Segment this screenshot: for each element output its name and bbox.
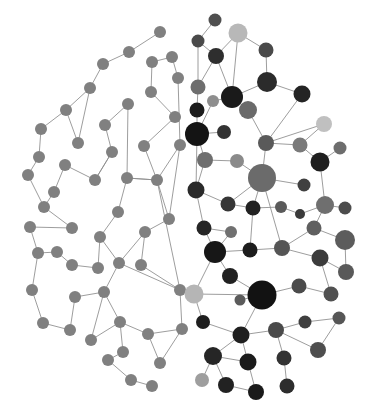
- network-node-l33[interactable]: [166, 51, 178, 63]
- network-node-r8[interactable]: [221, 86, 243, 108]
- network-node-r17[interactable]: [293, 138, 308, 153]
- network-node-r13[interactable]: [316, 116, 332, 132]
- network-node-r42[interactable]: [248, 281, 277, 310]
- network-node-r35[interactable]: [204, 241, 226, 263]
- network-node-l39[interactable]: [135, 259, 147, 271]
- network-node-r33[interactable]: [197, 221, 212, 236]
- network-node-r40[interactable]: [185, 285, 204, 304]
- network-node-l43[interactable]: [142, 328, 154, 340]
- network-node-l37[interactable]: [163, 213, 175, 225]
- network-node-r49[interactable]: [204, 347, 222, 365]
- network-node-l29[interactable]: [169, 111, 181, 123]
- network-node-l22[interactable]: [94, 231, 106, 243]
- network-node-r12[interactable]: [239, 101, 257, 119]
- network-node-l14[interactable]: [24, 221, 36, 233]
- network-node-r36[interactable]: [243, 243, 258, 258]
- network-node-l1[interactable]: [97, 58, 109, 70]
- network-node-l5[interactable]: [122, 98, 134, 110]
- network-node-r15[interactable]: [217, 125, 231, 139]
- network-node-r28[interactable]: [295, 209, 305, 219]
- network-node-r20[interactable]: [197, 152, 213, 168]
- network-node-r43[interactable]: [292, 279, 307, 294]
- network-node-r22[interactable]: [248, 164, 276, 192]
- network-node-l2[interactable]: [123, 46, 135, 58]
- network-node-l10[interactable]: [59, 159, 71, 171]
- network-node-r34[interactable]: [225, 226, 237, 238]
- network-node-r23[interactable]: [298, 179, 311, 192]
- network-node-r32[interactable]: [335, 230, 355, 250]
- network-node-l41[interactable]: [66, 259, 78, 271]
- network-node-l20[interactable]: [98, 286, 110, 298]
- network-node-l26[interactable]: [151, 174, 163, 186]
- network-node-r47[interactable]: [268, 322, 284, 338]
- network-node-l32[interactable]: [146, 56, 158, 68]
- network-node-l51[interactable]: [51, 246, 63, 258]
- network-node-l17[interactable]: [37, 317, 49, 329]
- network-node-l46[interactable]: [125, 374, 137, 386]
- network-node-r4[interactable]: [229, 24, 248, 43]
- network-node-r51[interactable]: [277, 351, 292, 366]
- network-node-l9[interactable]: [33, 151, 45, 163]
- network-node-r44[interactable]: [324, 287, 339, 302]
- network-node-l16[interactable]: [26, 284, 38, 296]
- network-node-r6[interactable]: [191, 80, 206, 95]
- network-node-l19[interactable]: [69, 291, 81, 303]
- network-node-r21[interactable]: [230, 154, 244, 168]
- network-node-r45[interactable]: [196, 315, 210, 329]
- network-node-l18[interactable]: [64, 324, 76, 336]
- network-node-l6[interactable]: [99, 119, 111, 131]
- network-node-r27[interactable]: [275, 201, 287, 213]
- network-node-l47[interactable]: [146, 380, 158, 392]
- network-node-r54[interactable]: [248, 384, 264, 400]
- network-node-l50[interactable]: [85, 334, 97, 346]
- network-node-r11[interactable]: [207, 95, 219, 107]
- network-node-l35[interactable]: [72, 137, 84, 149]
- network-node-l48[interactable]: [117, 346, 129, 358]
- network-node-r2[interactable]: [192, 35, 205, 48]
- network-node-r7[interactable]: [190, 103, 205, 118]
- network-node-r29[interactable]: [316, 196, 334, 214]
- network-node-r39[interactable]: [338, 264, 354, 280]
- network-node-r55[interactable]: [280, 379, 295, 394]
- network-node-r1[interactable]: [209, 14, 222, 27]
- network-node-l40[interactable]: [92, 262, 104, 274]
- network-node-l52[interactable]: [66, 222, 78, 234]
- network-node-r31[interactable]: [307, 221, 322, 236]
- network-node-r37[interactable]: [274, 240, 290, 256]
- network-node-l45[interactable]: [102, 354, 114, 366]
- network-node-r19[interactable]: [334, 142, 347, 155]
- network-node-l31[interactable]: [172, 72, 184, 84]
- network-node-l49[interactable]: [154, 357, 166, 369]
- network-node-l36[interactable]: [139, 226, 151, 238]
- network-node-l8[interactable]: [35, 123, 47, 135]
- network-node-r50[interactable]: [240, 354, 257, 371]
- network-node-r24[interactable]: [188, 182, 205, 199]
- network-node-r46[interactable]: [233, 327, 250, 344]
- network-node-l15[interactable]: [32, 247, 44, 259]
- network-node-r26[interactable]: [246, 201, 261, 216]
- network-node-r25[interactable]: [221, 197, 236, 212]
- network-node-r16[interactable]: [258, 135, 274, 151]
- network-node-l28[interactable]: [174, 139, 186, 151]
- network-node-r14[interactable]: [185, 122, 209, 146]
- network-node-r38[interactable]: [312, 250, 329, 267]
- network-node-r57[interactable]: [333, 312, 346, 325]
- network-node-r52[interactable]: [310, 342, 326, 358]
- network-node-r5[interactable]: [259, 43, 274, 58]
- network-node-l38[interactable]: [174, 284, 186, 296]
- network-node-l13[interactable]: [38, 201, 50, 213]
- network-node-l7[interactable]: [60, 104, 72, 116]
- network-node-l21[interactable]: [113, 257, 125, 269]
- network-node-l25[interactable]: [121, 172, 133, 184]
- network-node-l30[interactable]: [145, 86, 157, 98]
- network-node-r56[interactable]: [195, 373, 209, 387]
- network-node-r48[interactable]: [299, 316, 312, 329]
- network-node-l23[interactable]: [112, 206, 124, 218]
- network-node-r18[interactable]: [311, 153, 330, 172]
- network-node-l3[interactable]: [154, 26, 166, 38]
- network-node-r10[interactable]: [294, 86, 311, 103]
- network-node-l44[interactable]: [176, 323, 188, 335]
- network-node-r30[interactable]: [339, 202, 352, 215]
- network-node-l12[interactable]: [48, 186, 60, 198]
- network-node-r58[interactable]: [235, 295, 246, 306]
